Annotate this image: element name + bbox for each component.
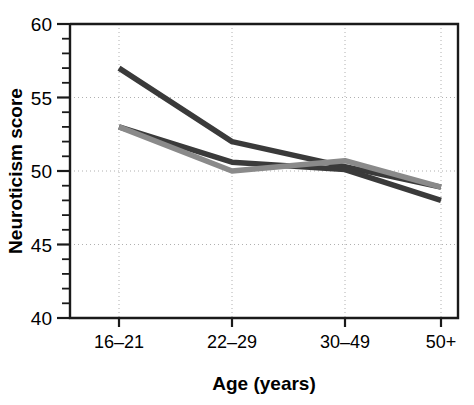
y-tick-label: 60 — [31, 14, 52, 35]
figure-container: 4045505560 16–2122–2930–4950+ Neuroticis… — [0, 0, 474, 405]
y-tick-label: 45 — [31, 235, 52, 256]
x-tick-label: 22–29 — [207, 332, 257, 352]
y-axis-title: Neuroticism score — [5, 88, 26, 254]
x-tick-label: 16–21 — [94, 332, 144, 352]
x-axis-title: Age (years) — [212, 373, 316, 394]
x-tick-label: 50+ — [426, 332, 457, 352]
y-tick-label: 50 — [31, 161, 52, 182]
x-tick-label: 30–49 — [320, 332, 370, 352]
y-tick-label: 55 — [31, 88, 52, 109]
y-tick-label: 40 — [31, 308, 52, 329]
neuroticism-by-age-line-chart: 4045505560 16–2122–2930–4950+ Neuroticis… — [0, 0, 474, 405]
